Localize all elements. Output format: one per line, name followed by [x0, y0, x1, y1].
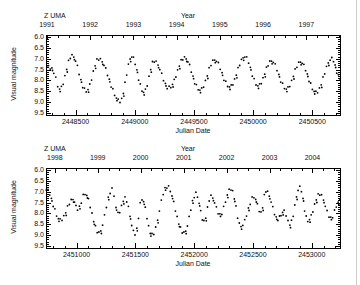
panel2-x-axis-title: Julian Date — [163, 260, 223, 268]
x-tick-label: 2450500 — [287, 118, 337, 126]
x-tick-label: 2453000 — [287, 251, 337, 259]
light-curve-figure: Z UMA Year Visual magnitude Julian Date … — [0, 0, 360, 285]
y-tick-label: 7.0 — [14, 188, 44, 196]
y-tick-label: 8.0 — [14, 209, 44, 217]
y-tick-label: 7.0 — [14, 55, 44, 63]
year-tick-label: 1993 — [117, 21, 149, 29]
x-tick-label: 2449500 — [169, 118, 219, 126]
x-tick-label: 2449000 — [110, 118, 160, 126]
year-tick-label: 1999 — [82, 154, 114, 162]
y-tick-label: 6.5 — [14, 177, 44, 185]
year-tick-label: 2001 — [168, 154, 200, 162]
year-tick-label: 1997 — [290, 21, 322, 29]
panel1-x-axis-title: Julian Date — [163, 127, 223, 135]
y-tick-label: 9.0 — [14, 231, 44, 239]
panel2-star-name: Z UMA — [44, 145, 66, 153]
y-tick-label: 9.0 — [14, 98, 44, 106]
year-tick-label: 2002 — [211, 154, 243, 162]
y-tick-label: 6.0 — [14, 166, 44, 174]
y-tick-label: 8.5 — [14, 220, 44, 228]
y-tick-label: 6.5 — [14, 44, 44, 52]
panel1-year-axis-title: Year — [158, 12, 218, 20]
year-tick-label: 1994 — [161, 21, 193, 29]
x-tick-label: 2451500 — [110, 251, 160, 259]
year-tick-label: 2000 — [125, 154, 157, 162]
year-tick-label: 1991 — [31, 21, 63, 29]
year-tick-label: 2004 — [296, 154, 328, 162]
y-tick-label: 7.5 — [14, 199, 44, 207]
y-tick-label: 8.0 — [14, 76, 44, 84]
page-edge-line — [356, 0, 357, 285]
year-tick-label: 1996 — [247, 21, 279, 29]
y-tick-label: 9.5 — [14, 109, 44, 117]
panel1-star-name: Z UMA — [44, 12, 66, 20]
x-tick-label: 2448500 — [51, 118, 101, 126]
y-tick-label: 7.5 — [14, 66, 44, 74]
y-tick-label: 9.5 — [14, 242, 44, 250]
x-tick-label: 2451000 — [52, 251, 102, 259]
year-tick-label: 1992 — [74, 21, 106, 29]
year-tick-label: 1995 — [204, 21, 236, 29]
panel2-year-axis-title: Year — [158, 145, 218, 153]
chart-canvas — [0, 0, 360, 285]
x-tick-label: 2452500 — [228, 251, 278, 259]
y-tick-label: 6.0 — [14, 33, 44, 41]
year-tick-label: 2003 — [254, 154, 286, 162]
x-tick-label: 2452000 — [169, 251, 219, 259]
y-tick-label: 8.5 — [14, 87, 44, 95]
x-tick-label: 2450000 — [228, 118, 278, 126]
year-tick-label: 1998 — [39, 154, 71, 162]
